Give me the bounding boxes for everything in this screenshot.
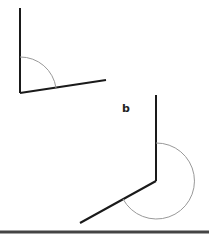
angle-figure-a: [20, 8, 106, 93]
figure-label-b: b: [122, 102, 130, 115]
angle-diagram: [0, 0, 209, 239]
ray-a-horizontal: [20, 80, 106, 93]
angle-arc-a: [20, 57, 56, 88]
angle-figure-b: [80, 95, 194, 223]
angle-arc-b: [123, 143, 194, 219]
